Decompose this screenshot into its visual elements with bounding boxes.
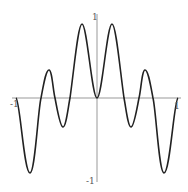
x-tick-label-right: 1	[174, 102, 180, 111]
x-tick-label-left: -1	[10, 100, 19, 109]
y-tick-label-bottom: -1	[86, 177, 95, 186]
plot-svg	[0, 0, 188, 192]
plot-area: 1 -1 -1 1	[0, 0, 188, 192]
y-tick-label-top: 1	[92, 13, 98, 22]
